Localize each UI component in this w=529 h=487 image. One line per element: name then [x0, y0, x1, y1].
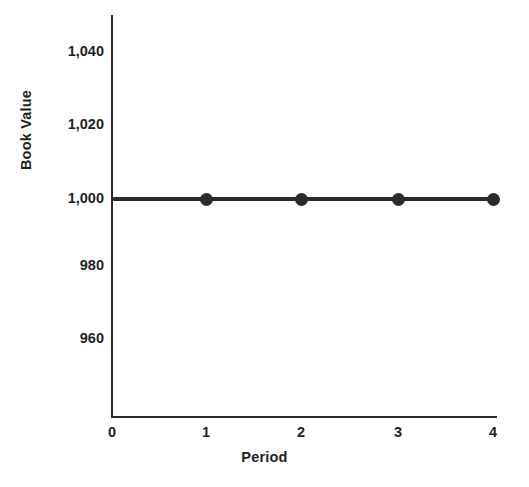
x-tick-label-0: 0 [92, 424, 132, 440]
x-axis-line [111, 416, 497, 418]
y-tick-label-980: 980 [44, 257, 104, 273]
x-tick-label-1: 1 [186, 424, 226, 440]
data-point-period-1 [200, 193, 213, 206]
y-tick-label-1040: 1,040 [44, 43, 104, 59]
data-point-period-4 [487, 193, 500, 206]
data-point-period-2 [295, 193, 308, 206]
x-tick-label-2: 2 [281, 424, 321, 440]
x-axis-title: Period [0, 449, 529, 465]
y-tick-label-960: 960 [44, 330, 104, 346]
book-value-line-chart: Book Value 1,040 1,020 1,000 980 960 0 1… [0, 0, 529, 487]
y-axis-title: Book Value [18, 70, 34, 190]
y-axis-tick-labels: 1,040 1,020 1,000 980 960 [40, 0, 104, 487]
y-tick-label-1020: 1,020 [44, 116, 104, 132]
y-tick-label-1000: 1,000 [44, 190, 104, 206]
y-axis-line [111, 15, 113, 418]
x-tick-label-3: 3 [378, 424, 418, 440]
data-point-period-3 [392, 193, 405, 206]
x-tick-label-4: 4 [473, 424, 513, 440]
